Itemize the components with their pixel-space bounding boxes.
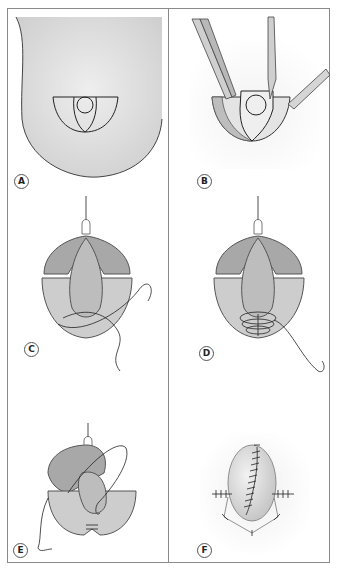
panel-c: C [8,196,168,381]
panel-label-b: B [197,174,212,189]
breast-incision-diagram [8,9,168,194]
panel-divider [168,8,169,563]
pedicle-fold-suture-diagram [8,383,168,568]
panel-f: F [170,383,330,568]
panel-label-c: C [24,342,39,357]
panel-a: A [8,9,168,194]
panel-e: E [8,383,168,568]
purse-string-suture-diagram [170,196,330,381]
panel-label-f: F [197,543,212,558]
panel-label-d: D [199,346,214,361]
panel-d: D [170,196,330,381]
final-closure-diagram [170,383,330,568]
panel-label-a: A [14,174,29,189]
panel-label-e: E [13,543,28,558]
excision-with-forceps-diagram [170,9,330,194]
panel-b: B [170,9,330,194]
